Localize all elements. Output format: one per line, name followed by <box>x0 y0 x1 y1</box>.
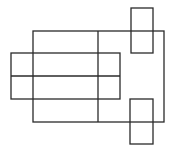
geometric-figure <box>0 0 174 151</box>
